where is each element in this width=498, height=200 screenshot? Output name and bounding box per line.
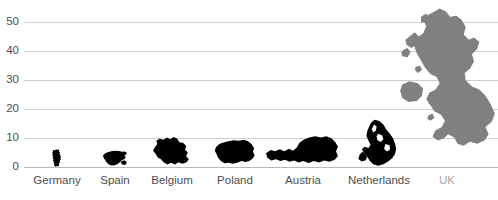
belgium-map-icon <box>151 135 193 167</box>
ytick-label-0: 0 <box>13 161 19 173</box>
austria-map-icon <box>265 133 341 167</box>
ytick-label-40: 40 <box>6 45 19 57</box>
country-column-poland: Poland <box>202 0 268 200</box>
ytick-label-30: 30 <box>6 74 19 86</box>
spain-map-icon <box>102 150 128 167</box>
country-label-uk: UK <box>439 175 455 187</box>
ytick-label-50: 50 <box>6 16 19 28</box>
country-label-germany: Germany <box>33 175 80 187</box>
ytick-label-20: 20 <box>6 103 19 115</box>
country-label-poland: Poland <box>217 175 253 187</box>
country-column-uk: UK <box>396 0 498 200</box>
country-column-austria: Austria <box>260 0 346 200</box>
country-label-austria: Austria <box>285 175 321 187</box>
chart-container: 50 40 30 20 10 0 Germany <box>0 0 498 200</box>
netherlands-map-icon <box>357 119 401 167</box>
germany-map-icon <box>50 149 65 167</box>
uk-map-icon <box>396 7 498 167</box>
country-label-belgium: Belgium <box>151 175 193 187</box>
country-column-belgium: Belgium <box>136 0 208 200</box>
ytick-label-10: 10 <box>6 132 19 144</box>
poland-map-icon <box>213 137 257 167</box>
country-columns: Germany Spain Belgium <box>24 0 498 200</box>
country-column-germany: Germany <box>24 0 90 200</box>
country-label-spain: Spain <box>100 175 129 187</box>
